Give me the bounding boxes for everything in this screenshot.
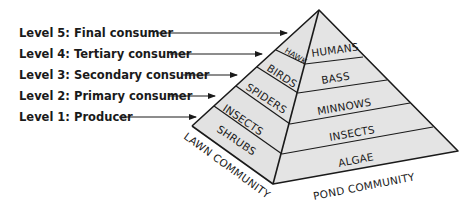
energy-pyramid-diagram: Level 5: Final consumer Level 4: Tertiar… xyxy=(0,0,473,214)
level-labels: Level 5: Final consumer Level 4: Tertiar… xyxy=(19,26,210,124)
level-1-label: Level 1: Producer xyxy=(19,110,133,124)
level-2-label: Level 2: Primary consumer xyxy=(19,89,193,103)
pond-community-label: POND COMMUNITY xyxy=(312,170,416,202)
level-4-label: Level 4: Tertiary consumer xyxy=(19,47,192,61)
level-3-label: Level 3: Secondary consumer xyxy=(19,68,210,82)
pyramid xyxy=(192,10,458,184)
level-5-label: Level 5: Final consumer xyxy=(19,26,173,40)
